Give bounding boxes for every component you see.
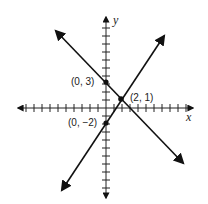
y-axis-label: y [113,14,118,26]
graph-canvas [0,0,208,204]
point-0-neg2 [103,120,108,125]
x-axis-label: x [186,111,191,123]
point-label-2-1: (2, 1) [130,93,153,103]
point-0-3 [103,79,108,84]
line-increasing [62,36,164,190]
point-2-1 [118,96,124,102]
coordinate-plane-diagram: y x (0, 3) (2, 1) (0, −2) [0,0,208,204]
point-label-0-3: (0, 3) [71,77,94,87]
point-label-0-neg2: (0, −2) [68,118,97,128]
